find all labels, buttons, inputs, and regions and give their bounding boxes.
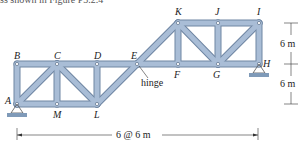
pin-m (55, 102, 58, 105)
node-label-i: I (257, 7, 260, 17)
pin-k (176, 21, 179, 24)
pin-c (55, 62, 58, 65)
pin-d (95, 62, 98, 65)
pin-b (15, 62, 18, 65)
node-label-d: D (94, 51, 101, 61)
pin-f (176, 62, 179, 65)
node-label-a: A (5, 96, 11, 106)
pin-g (216, 62, 219, 65)
dimension-lower: 6 m (280, 79, 295, 89)
node-label-b: B (14, 51, 20, 61)
pin-i (257, 21, 260, 24)
node-label-l: L (94, 110, 100, 120)
node-label-g: G (213, 70, 220, 80)
node-label-m: M (53, 110, 61, 120)
node-label-c: C (54, 51, 61, 61)
vertical-dimension (284, 23, 298, 104)
node-label-h: H (263, 59, 270, 69)
node-label-e: E (131, 51, 137, 61)
pin-e (135, 62, 138, 65)
pin-l (95, 102, 98, 105)
dimension-upper: 6 m (280, 39, 295, 49)
truss-diagram (0, 0, 303, 142)
node-label-f: F (174, 70, 180, 80)
node-label-j: J (215, 7, 219, 17)
hinge-label: hinge (141, 78, 163, 88)
dimension-span: 6 @ 6 m (116, 130, 151, 140)
node-label-k: K (175, 7, 182, 17)
pin-j (216, 21, 219, 24)
